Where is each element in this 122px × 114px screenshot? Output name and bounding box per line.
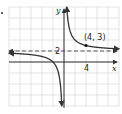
- y-tick-label: 2: [55, 47, 60, 56]
- graph: (4, 3) 2 4 x y: [0, 0, 122, 114]
- curve-right-branch: [67, 7, 119, 49]
- curve-left-branch: [9, 53, 62, 106]
- x-tick-label: 4: [84, 64, 89, 73]
- point-4-3: [84, 44, 87, 47]
- y-axis-label: y: [55, 6, 61, 15]
- point-label: (4, 3): [84, 33, 106, 42]
- x-axis-label: x: [112, 64, 117, 73]
